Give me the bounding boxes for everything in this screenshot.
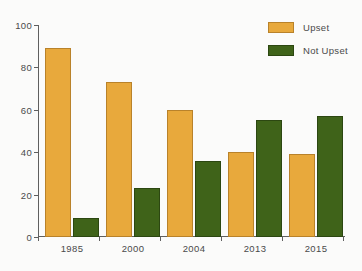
x-tick: [38, 237, 39, 241]
bar-group-2000: 2000: [106, 25, 160, 237]
x-tick: [343, 237, 344, 241]
legend-swatch-not-upset-icon: [268, 45, 294, 56]
x-axis-label: 2000: [106, 243, 160, 254]
bar-chart: 100 80 60 40 20 0: [0, 0, 362, 271]
bar-upset-2013[interactable]: [228, 152, 254, 237]
legend: Upset Not Upset: [268, 20, 348, 66]
bar-upset-1985[interactable]: [45, 48, 71, 237]
y-tick-label: 80: [21, 62, 32, 73]
x-tick: [221, 237, 222, 241]
legend-item-upset[interactable]: Upset: [268, 20, 348, 34]
y-tick-label: 40: [21, 147, 32, 158]
bar-not-upset-2015[interactable]: [317, 116, 343, 237]
y-axis-line: [38, 25, 39, 237]
bar-not-upset-1985[interactable]: [73, 218, 99, 237]
bar-upset-2000[interactable]: [106, 82, 132, 237]
bar-group-2004: 2004: [167, 25, 221, 237]
legend-label: Upset: [303, 22, 329, 33]
x-axis-label: 2015: [289, 243, 343, 254]
bar-upset-2015[interactable]: [289, 154, 315, 237]
y-tick-label: 20: [21, 189, 32, 200]
legend-swatch-upset-icon: [268, 22, 294, 33]
bar-not-upset-2013[interactable]: [256, 120, 282, 237]
y-tick-label: 60: [21, 104, 32, 115]
x-tick: [99, 237, 100, 241]
bar-group-1985: 1985: [45, 25, 99, 237]
bar-not-upset-2004[interactable]: [195, 161, 221, 237]
legend-label: Not Upset: [303, 45, 348, 56]
y-tick-label: 0: [26, 232, 32, 243]
legend-item-not-upset[interactable]: Not Upset: [268, 43, 348, 57]
x-axis-label: 1985: [45, 243, 99, 254]
x-tick: [282, 237, 283, 241]
x-tick: [160, 237, 161, 241]
x-axis-label: 2013: [228, 243, 282, 254]
bar-upset-2004[interactable]: [167, 110, 193, 237]
x-axis-label: 2004: [167, 243, 221, 254]
y-tick-label: 100: [15, 20, 32, 31]
bar-not-upset-2000[interactable]: [134, 188, 160, 237]
